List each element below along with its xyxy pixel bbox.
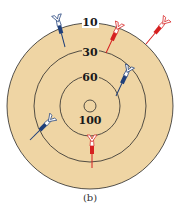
label-30: 30	[82, 46, 98, 59]
label-10: 10	[82, 16, 98, 29]
figure-caption: (b)	[83, 192, 97, 203]
label-60: 60	[82, 71, 98, 84]
dart-red-2	[142, 16, 171, 48]
label-100: 100	[79, 114, 102, 127]
dartboard-diagram: 10 30 60 100 (b)	[0, 0, 180, 209]
